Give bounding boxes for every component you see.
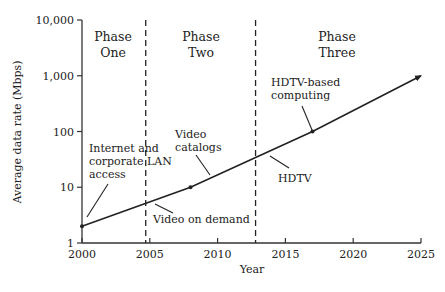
x-tick-label: 2000 [68,248,96,261]
chart: 1101001,00010,000 2000200520102015202020… [0,0,445,292]
y-axis: 1101001,00010,000 [36,14,83,250]
x-tick-label: 2025 [407,248,435,261]
x-tick-label: 2020 [339,248,367,261]
phase-label-three: Phase Three [318,29,356,60]
phase-label-two: Phase Two [182,29,220,60]
data-point [188,185,192,189]
x-tick-label: 2005 [136,248,164,261]
data-point [311,130,315,134]
phase-label-one: Phase One [94,29,132,60]
svg-text:Three: Three [318,45,355,60]
data-point [80,224,84,228]
svg-text:Phase: Phase [182,29,220,44]
annotation-hdtv: HDTV [270,156,313,185]
y-tick-label: 10 [60,181,74,194]
y-tick-label: 1,000 [43,70,75,83]
svg-text:Two: Two [188,45,214,60]
svg-text:Video on demand: Video on demand [152,213,250,226]
svg-text:corporate LAN: corporate LAN [89,155,172,168]
svg-text:access: access [89,168,126,181]
svg-text:Phase: Phase [94,29,132,44]
x-tick-label: 2010 [204,248,232,261]
svg-text:Phase: Phase [318,29,356,44]
svg-text:HDTV: HDTV [278,172,313,185]
y-axis-title: Average data rate (Mbps) [11,61,24,205]
y-tick-label: 10,000 [36,14,75,27]
svg-text:Internet and: Internet and [89,142,159,155]
annotation-video-catalogs: Video catalogs [174,128,222,175]
y-tick-label: 100 [53,126,74,139]
annotation-video-on-demand: Video on demand [152,204,250,226]
x-axis: 200020052010201520202025 [68,238,435,261]
svg-text:HDTV-based: HDTV-based [271,76,340,89]
svg-text:catalogs: catalogs [175,141,222,154]
svg-text:One: One [100,45,126,60]
x-axis-title: Year [239,263,265,276]
svg-text:Video: Video [174,128,207,141]
svg-text:computing: computing [271,89,330,102]
x-tick-label: 2015 [271,248,299,261]
